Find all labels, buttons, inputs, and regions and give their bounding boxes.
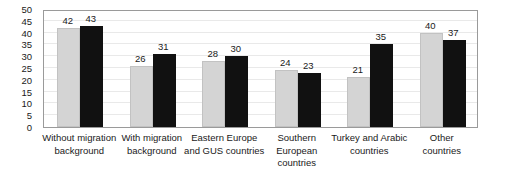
gridline — [44, 114, 477, 115]
bar-series-2-4 — [370, 44, 393, 127]
x-category-label: Othercountries — [398, 132, 487, 157]
gridline — [44, 43, 477, 44]
bar-series-1-4 — [347, 77, 370, 127]
bar-value-label: 23 — [303, 61, 314, 71]
bar-value-label: 37 — [448, 28, 459, 38]
y-tick-label: 15 — [21, 88, 32, 98]
bar-value-label: 28 — [207, 49, 218, 59]
bar-series-1-2 — [202, 61, 225, 127]
bar-value-label: 31 — [158, 42, 169, 52]
bar-value-label: 26 — [135, 54, 146, 64]
y-tick-label: 25 — [21, 64, 32, 74]
gridline — [44, 91, 477, 92]
bar-series-2-2 — [225, 56, 248, 127]
bar-chart: 50454035302520151050 4243263128302423213… — [0, 0, 509, 185]
gridline — [44, 102, 477, 103]
y-axis: 50454035302520151050 — [0, 10, 40, 128]
y-tick-label: 5 — [27, 111, 32, 121]
bar-series-2-0 — [80, 26, 103, 127]
bar-value-label: 35 — [375, 32, 386, 42]
y-tick-label: 35 — [21, 41, 32, 51]
bar-series-1-0 — [57, 28, 80, 127]
x-category-label-line: Other — [398, 132, 487, 145]
bar-value-label: 21 — [352, 65, 363, 75]
bar-value-label: 43 — [85, 14, 96, 24]
bar-series-1-3 — [275, 70, 298, 127]
y-tick-label: 20 — [21, 76, 32, 86]
x-category-label-line: countries — [253, 157, 342, 170]
bar-series-2-5 — [443, 40, 466, 127]
gridline — [44, 79, 477, 80]
bar-value-label: 24 — [280, 58, 291, 68]
y-tick-label: 40 — [21, 29, 32, 39]
gridline — [44, 32, 477, 33]
y-tick-label: 0 — [27, 123, 32, 133]
bar-series-2-1 — [153, 54, 176, 127]
y-tick-label: 30 — [21, 52, 32, 62]
bar-value-label: 40 — [425, 21, 436, 31]
bar-value-label: 42 — [62, 16, 73, 26]
gridline — [44, 67, 477, 68]
y-tick-label: 50 — [21, 5, 32, 15]
x-category-label-line: countries — [398, 145, 487, 158]
bar-value-label: 30 — [230, 44, 241, 54]
plot-area — [43, 10, 478, 128]
gridline — [44, 55, 477, 56]
bar-series-1-5 — [420, 33, 443, 127]
bar-series-1-1 — [130, 66, 153, 127]
y-tick-label: 10 — [21, 100, 32, 110]
y-tick-label: 45 — [21, 17, 32, 27]
bar-series-2-3 — [298, 73, 321, 127]
x-axis-category-labels: Without migrationbackgroundWith migratio… — [43, 132, 478, 182]
gridline — [44, 20, 477, 21]
